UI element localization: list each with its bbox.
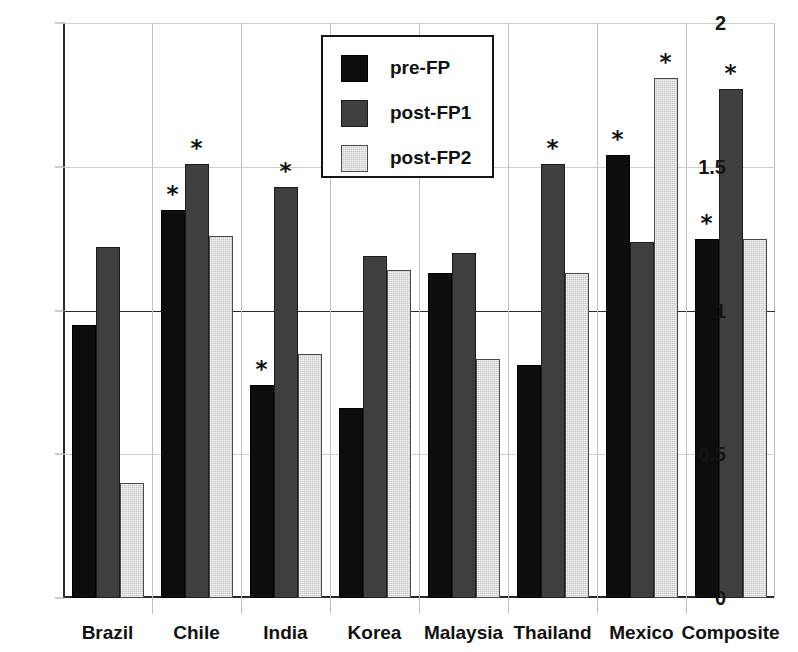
legend-swatch-pre-fp — [341, 55, 368, 82]
significance-star-chile-pre-fp: * — [166, 183, 178, 206]
bar-brazil-post-fp1 — [96, 247, 120, 598]
scan-artifact-mark-3: · — [236, 6, 241, 14]
scan-artifact-mark-2: · — [128, 6, 133, 14]
y-tick-label-1: 1 — [715, 299, 726, 322]
bar-thailand-post-fp1 — [541, 164, 565, 598]
significance-star-india-post-fp1: * — [279, 160, 291, 183]
x-tick-label-korea: Korea — [348, 622, 402, 644]
bar-korea-post-fp2 — [387, 270, 411, 598]
scan-artifact-mark-1: · — [14, 6, 19, 14]
y-tick-mark-1.5 — [55, 166, 65, 167]
significance-star-composite-pre-fp: * — [700, 212, 712, 235]
significance-star-thailand-post-fp1: * — [546, 137, 558, 160]
y-tick-mark-0.5 — [55, 454, 65, 455]
legend-item-post-fp1: post-FP1 — [323, 93, 492, 133]
gridline-x-mexico — [597, 23, 598, 614]
y-tick-label-1.5: 1.5 — [698, 155, 726, 178]
y-tick-mark-0 — [55, 598, 65, 599]
bar-malaysia-post-fp2 — [476, 359, 500, 598]
bar-india-post-fp2 — [298, 354, 322, 598]
bar-thailand-pre-fp — [517, 365, 541, 598]
bar-chile-pre-fp — [161, 210, 185, 598]
bar-composite-post-fp2 — [743, 239, 767, 598]
bar-malaysia-pre-fp — [428, 273, 452, 598]
x-tick-label-india: India — [263, 622, 307, 644]
legend-item-post-fp2: post-FP2 — [323, 138, 492, 178]
gridline-x-composite — [686, 23, 687, 614]
legend-label-pre-fp: pre-FP — [390, 57, 450, 79]
gridline-x-chile — [152, 23, 153, 614]
x-tick-label-thailand: Thailand — [513, 622, 591, 644]
bar-brazil-pre-fp — [72, 325, 96, 598]
y-tick-mark-1 — [55, 310, 65, 311]
bar-thailand-post-fp2 — [565, 273, 589, 598]
significance-star-mexico-post-fp2: * — [659, 51, 671, 74]
gridline-x-india — [241, 23, 242, 614]
bar-chile-post-fp1 — [185, 164, 209, 598]
bar-india-post-fp1 — [274, 187, 298, 598]
significance-star-composite-post-fp1: * — [724, 62, 736, 85]
legend-swatch-post-fp2 — [341, 145, 368, 172]
legend-label-post-fp2: post-FP2 — [390, 147, 471, 169]
bar-malaysia-post-fp1 — [452, 253, 476, 598]
x-tick-label-malaysia: Malaysia — [424, 622, 503, 644]
y-tick-label-2: 2 — [715, 12, 726, 35]
y-tick-label-0: 0 — [715, 587, 726, 610]
bar-india-pre-fp — [250, 385, 274, 598]
legend: pre-FP post-FP1 post-FP2 — [321, 35, 494, 178]
bar-korea-pre-fp — [339, 408, 363, 598]
significance-star-chile-post-fp1: * — [190, 137, 202, 160]
bar-korea-post-fp1 — [363, 256, 387, 598]
legend-label-post-fp1: post-FP1 — [390, 102, 471, 124]
legend-item-pre-fp: pre-FP — [323, 48, 492, 88]
legend-swatch-post-fp1 — [341, 100, 368, 127]
bar-chile-post-fp2 — [209, 236, 233, 598]
scan-artifact: · · · — [0, 0, 798, 14]
y-tick-mark-2 — [55, 23, 65, 24]
significance-star-india-pre-fp: * — [255, 358, 267, 381]
y-tick-label-0.5: 0.5 — [698, 443, 726, 466]
x-tick-label-chile: Chile — [173, 622, 219, 644]
x-tick-label-composite: Composite — [681, 622, 779, 644]
significance-star-mexico-pre-fp: * — [611, 128, 623, 151]
bar-chart: · · · ********* 00.511.52 BrazilChileInd… — [0, 0, 798, 652]
bar-mexico-post-fp2 — [654, 78, 678, 598]
bar-mexico-pre-fp — [606, 155, 630, 598]
bar-mexico-post-fp1 — [630, 242, 654, 599]
bar-brazil-post-fp2 — [120, 483, 144, 598]
x-tick-label-brazil: Brazil — [82, 622, 134, 644]
x-tick-label-mexico: Mexico — [609, 622, 673, 644]
gridline-x-thailand — [508, 23, 509, 614]
bar-composite-pre-fp — [695, 239, 719, 598]
